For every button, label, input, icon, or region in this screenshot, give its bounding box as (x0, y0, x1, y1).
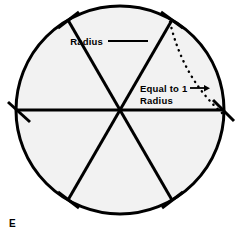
equal-to-radius-label-line1: Equal to 1 (140, 83, 188, 94)
equal-to-radius-label-line2: Radius (140, 95, 173, 106)
radius-label: Radius (70, 36, 103, 47)
figure-key-letter: E (9, 218, 16, 229)
circle-six-sectors-diagram: Radius Equal to 1 Radius E (0, 0, 243, 233)
